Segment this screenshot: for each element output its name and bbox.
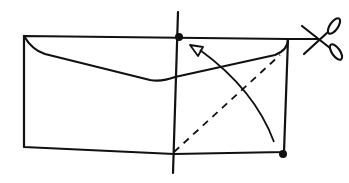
envelope-fold-diagram: [0, 0, 349, 183]
top-intersection-dot: [175, 33, 183, 41]
envelope-flap: [24, 36, 288, 81]
diagonal-dashed-fold: [174, 55, 280, 152]
arrow-head-icon: [190, 45, 203, 56]
bottom-right-corner-dot: [279, 150, 287, 158]
